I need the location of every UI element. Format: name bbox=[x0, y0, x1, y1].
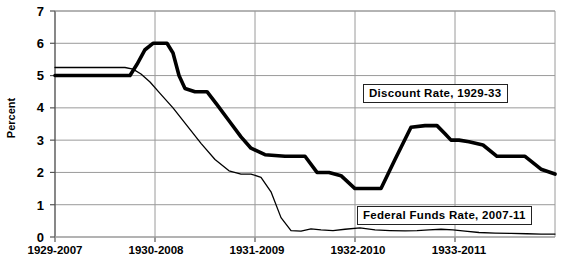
y-tick-label-0: 0 bbox=[22, 231, 44, 244]
y-tick-label-6: 6 bbox=[22, 37, 44, 50]
y-tick-label-5: 5 bbox=[22, 69, 44, 82]
y-tick-label-1: 1 bbox=[22, 199, 44, 212]
y-axis-title: Percent bbox=[5, 83, 17, 153]
x-tick-label-1: 1930-2008 bbox=[116, 244, 196, 256]
series-label-federal-funds-rate: Federal Funds Rate, 2007-11 bbox=[357, 206, 532, 225]
y-tick-label-3: 3 bbox=[22, 134, 44, 147]
x-tick-label-2: 1931-2009 bbox=[217, 244, 297, 256]
series-label-discount-rate: Discount Rate, 1929-33 bbox=[363, 84, 508, 103]
gridlines bbox=[55, 11, 555, 237]
x-tick-label-0: 1929-2007 bbox=[15, 244, 95, 256]
chart-container: Percent 7 6 5 4 3 2 1 0 1929-2007 1930-2… bbox=[0, 0, 564, 264]
y-tick-label-2: 2 bbox=[22, 166, 44, 179]
x-tick-label-3: 1932-2010 bbox=[318, 244, 398, 256]
y-tick-label-4: 4 bbox=[22, 101, 44, 114]
x-tick-label-4: 1933-2011 bbox=[419, 244, 499, 256]
series-line-discount-rate bbox=[55, 43, 555, 188]
axis-lines bbox=[55, 11, 555, 237]
y-tick-label-7: 7 bbox=[22, 5, 44, 18]
